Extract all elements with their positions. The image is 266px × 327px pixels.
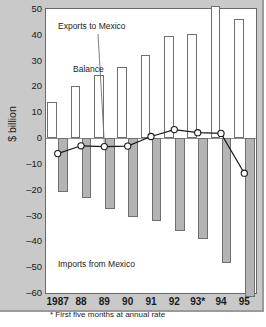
balance-marker <box>195 130 201 136</box>
y-axis-tick-label: 40 <box>31 30 42 40</box>
y-axis-tick-labels: 50403020100–10–20–30–40–50–60 <box>14 8 42 294</box>
y-axis-title: $ billion <box>6 94 18 154</box>
y-axis-tick-label: –30 <box>26 211 42 221</box>
x-axis-tick-label: 93* <box>190 296 205 307</box>
x-axis-tick-label: 91 <box>145 296 156 307</box>
x-axis-tick-label: 89 <box>99 296 110 307</box>
plot-area: Exports to Mexico Balance Imports from M… <box>46 9 256 293</box>
chart-footnote: * First five months at annual rate <box>50 310 165 319</box>
x-axis-tick-label: 1987 <box>47 296 69 307</box>
balance-marker <box>101 144 107 150</box>
y-axis-tick-label: –60 <box>26 288 42 298</box>
balance-marker <box>171 127 177 133</box>
y-axis-tick-label: 0 <box>37 133 42 143</box>
y-axis-tick-label: –10 <box>26 159 42 169</box>
balance-marker <box>218 130 224 136</box>
y-axis-tick-label: 10 <box>31 107 42 117</box>
y-axis-tick-label: 50 <box>31 4 42 14</box>
imports-annotation-label: Imports from Mexico <box>58 259 135 269</box>
balance-leader-line <box>98 34 104 143</box>
x-axis-tick-labels: 1987888990919293*9495 <box>45 296 257 310</box>
y-axis-tick-label: 20 <box>31 81 42 91</box>
y-axis-tick-label: –40 <box>26 236 42 246</box>
balance-marker <box>55 151 61 157</box>
balance-marker <box>148 133 154 139</box>
x-axis-tick-label: 90 <box>122 296 133 307</box>
balance-marker <box>78 143 84 149</box>
balance-marker <box>241 170 247 176</box>
plot-frame: Exports to Mexico Balance Imports from M… <box>45 8 257 294</box>
balance-line-series <box>46 9 258 295</box>
balance-annotation-label: Balance <box>73 64 104 74</box>
balance-marker <box>125 143 131 149</box>
y-axis-tick-label: –50 <box>26 262 42 272</box>
exports-annotation-label: Exports to Mexico <box>58 21 126 31</box>
chart-screenshot: 50403020100–10–20–30–40–50–60 $ billion … <box>0 0 266 327</box>
x-axis-tick-label: 95 <box>239 296 250 307</box>
x-axis-tick-label: 88 <box>75 296 86 307</box>
y-axis-tick-label: –20 <box>26 185 42 195</box>
x-axis-tick-label: 92 <box>169 296 180 307</box>
y-axis-tick-label: 30 <box>31 56 42 66</box>
x-axis-tick-label: 94 <box>215 296 226 307</box>
